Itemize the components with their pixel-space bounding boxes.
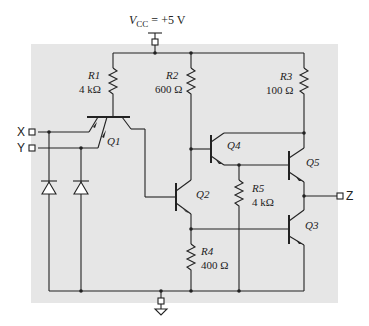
output-z-terminal xyxy=(337,193,343,199)
r3-value: 100 Ω xyxy=(266,85,293,96)
q5-label: Q5 xyxy=(306,157,319,168)
r1-label: R1 xyxy=(88,70,100,81)
input-x-label: X xyxy=(17,126,25,138)
q3-label: Q3 xyxy=(305,220,318,231)
r5-value: 4 kΩ xyxy=(252,197,274,208)
vcc-sub: CC xyxy=(136,19,148,29)
r4-value: 400 Ω xyxy=(201,260,228,271)
r2-label: R2 xyxy=(166,70,178,81)
vcc-value: = +5 V xyxy=(151,13,185,27)
r2-value: 600 Ω xyxy=(155,84,182,95)
r5-label: R5 xyxy=(252,183,264,194)
r3-label: R3 xyxy=(280,71,292,82)
output-z-label: Z xyxy=(346,190,353,202)
input-y-label: Y xyxy=(17,142,25,154)
input-y-terminal xyxy=(29,145,35,151)
vcc-label: VCC = +5 V xyxy=(129,14,185,29)
input-x-terminal xyxy=(29,129,35,135)
q4-label: Q4 xyxy=(227,140,240,151)
r4-label: R4 xyxy=(201,246,213,257)
q2-label: Q2 xyxy=(196,189,209,200)
q1-label: Q1 xyxy=(107,136,120,147)
r1-value: 4 kΩ xyxy=(79,84,101,95)
